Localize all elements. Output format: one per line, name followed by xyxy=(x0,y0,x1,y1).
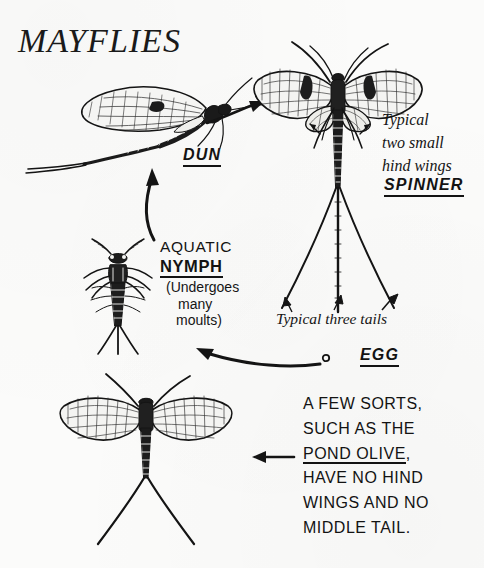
note-pond-olive: A FEW SORTS, SUCH AS THE POND OLIVE, HAV… xyxy=(303,392,429,541)
label-aquatic-nymph: AQUATIC NYMPH xyxy=(160,238,232,278)
mayflies-life-cycle-illustration: MAYFLIES xyxy=(0,0,484,568)
note-pond-olive-line6: MIDDLE TAIL. xyxy=(303,516,429,541)
arrow-nymph-to-dun xyxy=(126,160,178,242)
note-hind-wings: Typical two small hind wings xyxy=(382,110,452,178)
label-aquatic-nymph-line1: AQUATIC xyxy=(160,238,232,256)
note-pond-olive-comma: , xyxy=(406,445,411,462)
note-pond-olive-line5: WINGS AND NO xyxy=(303,491,429,516)
label-egg-text: EGG xyxy=(360,346,399,367)
note-pond-olive-line4: HAVE NO HIND xyxy=(303,466,429,491)
note-pond-olive-line3: POND OLIVE, xyxy=(303,442,429,467)
page-title: MAYFLIES xyxy=(18,22,181,60)
label-dun-text: DUN xyxy=(183,146,221,167)
label-dun: DUN xyxy=(183,146,221,167)
note-hind-wings-line3: hind wings xyxy=(382,156,452,177)
figure-nymph xyxy=(72,238,164,356)
label-aquatic-nymph-line2: NYMPH xyxy=(160,257,223,278)
figure-pond-olive xyxy=(46,372,246,552)
arrows-to-three-tails xyxy=(282,294,412,318)
note-nymph-moults-line2: many xyxy=(178,296,239,313)
label-spinner-text: SPINNER xyxy=(384,176,464,197)
note-nymph-moults-line3: moults) xyxy=(176,312,239,329)
arrow-egg-to-nymph xyxy=(180,338,326,372)
note-pond-olive-species: POND OLIVE xyxy=(303,446,406,465)
label-egg: EGG xyxy=(360,346,399,367)
note-nymph-moults-line1: (Undergoes xyxy=(166,279,239,296)
note-pond-olive-line1: A FEW SORTS, xyxy=(303,392,429,417)
note-hind-wings-line1: Typical xyxy=(382,110,452,131)
note-hind-wings-line2: two small xyxy=(382,133,452,154)
note-pond-olive-line2: SUCH AS THE xyxy=(303,417,429,442)
label-spinner: SPINNER xyxy=(384,176,464,197)
note-nymph-moults: (Undergoes many moults) xyxy=(166,279,239,329)
arrow-note-to-pond-olive xyxy=(250,448,298,466)
